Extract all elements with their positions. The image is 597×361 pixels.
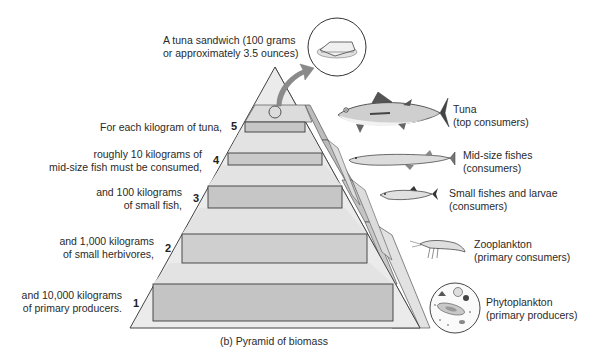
figure-caption: (b) Pyramid of biomass xyxy=(220,335,328,347)
sandwich-icon xyxy=(308,18,366,76)
level-1-number: 1 xyxy=(133,297,139,309)
level-4-label: roughly 10 kilograms of mid-size fish mu… xyxy=(49,148,202,174)
organism-label-small-fishes: Small fishes and larvae (consumers) xyxy=(449,187,558,213)
level-3-number: 3 xyxy=(193,192,199,204)
level-3-label: and 100 kilograms of small fish, xyxy=(96,186,182,212)
level-2-box xyxy=(182,234,367,263)
level-5-number: 5 xyxy=(231,120,237,132)
organism-label-tuna: Tuna (top consumers) xyxy=(453,103,529,129)
level-4-box xyxy=(228,153,322,165)
mid-size-fish-icon xyxy=(349,150,455,170)
tuna-icon xyxy=(338,92,449,133)
small-fish-icon xyxy=(380,186,438,200)
organism-label-mid-size-fishes: Mid-size fishes (consumers) xyxy=(463,149,532,175)
sandwich-label: A tuna sandwich (100 grams or approximat… xyxy=(163,34,298,60)
level-4-number: 4 xyxy=(213,154,219,166)
organism-label-phytoplankton: Phytoplankton (primary producers) xyxy=(486,296,578,322)
zooplankton-icon xyxy=(410,240,465,259)
level-5-label: For each kilogram of tuna, xyxy=(100,121,222,134)
level-3-box xyxy=(208,186,342,208)
level-5-box xyxy=(245,122,305,132)
organism-label-zooplankton: Zooplankton (primary consumers) xyxy=(474,238,570,264)
level-2-label: and 1,000 kilograms of small herbivores, xyxy=(59,235,154,261)
level-2-number: 2 xyxy=(165,242,171,254)
phytoplankton-icon xyxy=(430,283,480,333)
level-1-box xyxy=(153,284,393,321)
level-1-label: and 10,000 kilograms of primary producer… xyxy=(22,289,122,315)
